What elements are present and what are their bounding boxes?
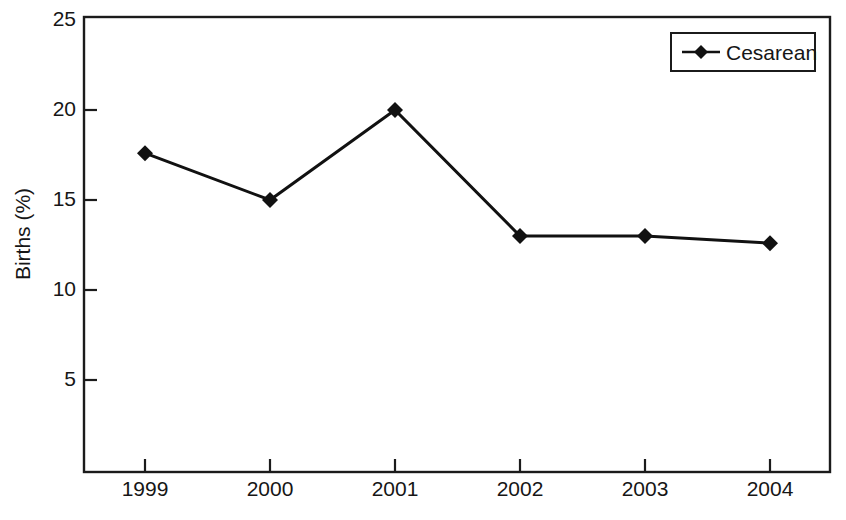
- cesarean-births-line-chart: Births (%) 25 20 15 10 5 1999 2000 2001 …: [0, 0, 846, 520]
- y-tick-marks: [84, 110, 97, 380]
- legend-label-cesarean: Cesarean: [726, 42, 817, 63]
- x-tick-marks: [145, 459, 770, 472]
- series-line-cesarean: [145, 110, 770, 243]
- plot-frame: [84, 17, 830, 472]
- legend-marker-diamond-icon: [681, 43, 721, 61]
- series-markers-cesarean: [137, 102, 778, 251]
- data-point-2004: [762, 235, 778, 251]
- plot-area: [0, 0, 846, 520]
- legend: Cesarean: [670, 32, 816, 72]
- data-point-2003: [637, 228, 653, 244]
- data-point-1999: [137, 145, 153, 161]
